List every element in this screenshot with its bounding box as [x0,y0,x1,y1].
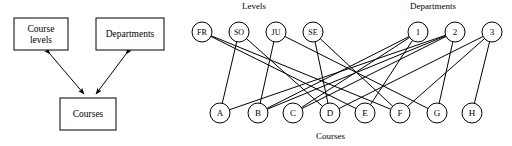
graph-node-1[interactable]: 1 [408,22,428,42]
figure-root: Course levels Departments Courses FRSOJU… [0,0,512,146]
graph-node-f[interactable]: F [390,103,410,123]
graph-edge [267,36,446,109]
graph-node-2[interactable]: 2 [445,22,465,42]
graph-node-label: JU [272,28,281,37]
graph-edge [222,42,236,104]
graph-node-d[interactable]: D [320,103,340,123]
connector-departments-courses [96,54,126,94]
graph-node-label: FR [197,28,207,37]
graph-node-fr[interactable]: FR [192,22,212,42]
graph-node-label: E [362,108,368,118]
graph-node-se[interactable]: SE [303,22,323,42]
graph-node-b[interactable]: B [248,103,268,123]
graph-node-label: H [469,108,476,118]
graph-node-label: G [434,108,441,118]
graph-node-label: 1 [416,27,421,37]
graph-node-label: 3 [490,27,495,37]
entity-box-departments [96,18,164,50]
group-label-courses: Courses [316,131,345,141]
bipartite-graph: FRSOJUSE123ABCDEFGH Levels Departments C… [180,0,512,146]
er-diagram-canvas [0,0,180,146]
graph-node-label: C [290,108,296,118]
graph-node-h[interactable]: H [462,103,482,123]
graph-edge [370,40,412,104]
graph-nodes-layer: FRSOJUSE123ABCDEFGH [192,22,502,123]
graph-node-3[interactable]: 3 [482,22,502,42]
er-diagram: Course levels Departments Courses [0,0,180,146]
entity-box-course-levels [14,18,68,50]
graph-edge [211,36,390,109]
group-label-departments: Departments [410,1,456,11]
graph-edge [302,36,446,108]
graph-edge [474,42,489,104]
graph-edge [408,39,485,107]
graph-node-ju[interactable]: JU [266,22,286,42]
graph-edge [229,35,445,109]
graph-node-label: 2 [453,27,458,37]
graph-node-g[interactable]: G [427,103,447,123]
graph-node-so[interactable]: SO [229,22,249,42]
graph-node-e[interactable]: E [355,103,375,123]
connector-course-levels-courses [50,54,84,94]
bipartite-graph-canvas: FRSOJUSE123ABCDEFGH [180,0,512,146]
graph-node-label: D [327,108,334,118]
graph-edge [260,42,274,103]
graph-edge [211,36,356,108]
entity-box-courses [60,98,116,130]
graph-node-label: B [255,108,261,118]
graph-edge [246,39,322,107]
graph-node-label: F [397,108,402,118]
graph-node-label: SE [308,28,317,37]
graph-node-c[interactable]: C [283,103,303,123]
graph-edges-layer [211,35,490,109]
graph-node-label: SO [234,28,244,37]
graph-node-label: A [217,108,224,118]
graph-node-a[interactable]: A [210,103,230,123]
group-label-levels: Levels [242,1,266,11]
